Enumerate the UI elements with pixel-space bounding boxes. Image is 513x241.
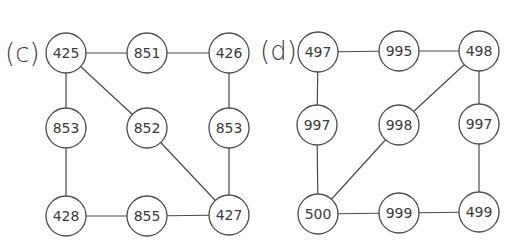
- node-value: 500: [305, 206, 332, 222]
- graph-node: 500: [298, 194, 338, 234]
- node-value: 998: [386, 117, 413, 133]
- node-value: 855: [134, 208, 161, 224]
- graph-node: 426: [209, 33, 249, 73]
- node-value: 425: [53, 45, 80, 61]
- node-value: 427: [216, 207, 243, 223]
- graph-node: 428: [46, 196, 86, 236]
- node-value: 852: [134, 120, 161, 136]
- node-value: 497: [305, 44, 332, 60]
- node-value: 498: [466, 43, 493, 59]
- panel-label-c: (c): [5, 38, 40, 68]
- node-value: 853: [216, 120, 243, 136]
- graph-node: 997: [297, 105, 337, 145]
- node-value: 428: [53, 208, 80, 224]
- graph-node: 855: [127, 196, 167, 236]
- graph-diagram: 4258514268538528534288554274979954989979…: [0, 0, 513, 241]
- graph-node: 425: [46, 33, 86, 73]
- node-value: 999: [386, 205, 413, 221]
- graph-node: 497: [298, 32, 338, 72]
- graph-node: 853: [46, 108, 86, 148]
- panel-label-d: (d): [260, 36, 297, 66]
- graph-node: 995: [379, 31, 419, 71]
- node-value: 426: [216, 45, 243, 61]
- graph-node: 999: [379, 193, 419, 233]
- node-value: 997: [466, 116, 493, 132]
- node-value: 853: [53, 120, 80, 136]
- graph-node: 997: [459, 104, 499, 144]
- graph-node: 498: [459, 31, 499, 71]
- node-value: 995: [386, 43, 413, 59]
- graph-node: 853: [209, 108, 249, 148]
- graph-node: 852: [127, 108, 167, 148]
- graph-node: 499: [459, 192, 499, 232]
- graph-node: 998: [379, 105, 419, 145]
- graph-node: 427: [209, 195, 249, 235]
- graph-node: 851: [127, 33, 167, 73]
- node-value: 499: [466, 204, 493, 220]
- node-value: 851: [134, 45, 161, 61]
- node-value: 997: [304, 117, 331, 133]
